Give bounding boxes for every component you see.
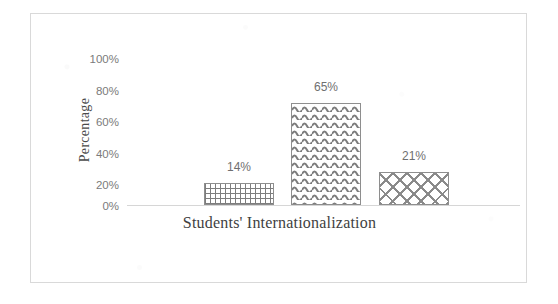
plot-area: Percentage 100% 80% 60% 40% 20% 0% 14% 6… xyxy=(31,14,528,284)
x-axis-title: Students' Internationalization xyxy=(31,214,528,232)
x-axis-baseline xyxy=(127,205,520,206)
y-tick-label-0: 0% xyxy=(75,201,119,213)
y-tick-label-60: 60% xyxy=(75,117,119,129)
y-tick-label-100: 100% xyxy=(75,54,119,66)
y-tick-label-80: 80% xyxy=(75,86,119,98)
figure-frame: Percentage 100% 80% 60% 40% 20% 0% 14% 6… xyxy=(30,13,527,283)
bar-series: 14% 65% 21% xyxy=(127,14,520,205)
bar-3-value-label: 21% xyxy=(379,149,449,163)
bar-group-3: 21% xyxy=(379,14,449,205)
bar-1[interactable] xyxy=(204,183,274,205)
y-tick-label-20: 20% xyxy=(75,180,119,192)
bar-3[interactable] xyxy=(379,172,449,205)
y-tick-label-40: 40% xyxy=(75,149,119,161)
y-axis-tick-labels: 100% 80% 60% 40% 20% 0% xyxy=(63,14,119,284)
bar-group-2: 65% xyxy=(291,14,361,205)
bar-1-value-label: 14% xyxy=(204,160,274,174)
bar-2[interactable] xyxy=(291,103,361,205)
bar-2-value-label: 65% xyxy=(291,80,361,94)
bar-group-1: 14% xyxy=(204,14,274,205)
